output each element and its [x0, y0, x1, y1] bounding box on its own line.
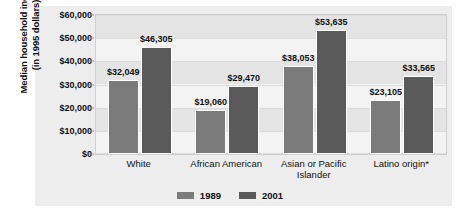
- figure: Median household income (in 1995 dollars…: [0, 0, 460, 211]
- bar-value-label: $38,053: [282, 53, 315, 63]
- y-axis-tick-mark: [89, 15, 94, 16]
- bar-value-label: $53,635: [315, 17, 348, 27]
- bar-value-label: $33,565: [402, 63, 435, 73]
- bar: [108, 80, 139, 154]
- bar-value-label: $46,305: [140, 34, 173, 44]
- y-axis-tick-label: $30,000: [40, 80, 92, 90]
- y-axis-tick-label: $0: [40, 149, 92, 159]
- y-axis-tick-mark: [89, 84, 94, 85]
- y-axis-tick-mark: [89, 61, 94, 62]
- bar-value-label: $32,049: [107, 67, 140, 77]
- bar: [228, 86, 259, 154]
- bar: [195, 110, 226, 154]
- bar: [283, 66, 314, 154]
- y-axis-tick-label: $50,000: [40, 33, 92, 43]
- bar-value-label: $29,470: [227, 73, 260, 83]
- legend-swatch: [177, 192, 194, 199]
- legend-item[interactable]: 1989: [177, 190, 221, 201]
- y-axis-tick-label: $60,000: [40, 10, 92, 20]
- y-axis-title-line1: Median household income: [18, 0, 30, 94]
- legend-label: 2001: [262, 190, 283, 201]
- y-axis-tick-label: $10,000: [40, 126, 92, 136]
- legend-item[interactable]: 2001: [239, 190, 283, 201]
- y-axis-tick-mark: [89, 130, 94, 131]
- x-axis-category-label: Asian or Pacific Islander: [281, 158, 346, 180]
- gridline: [96, 15, 446, 16]
- y-axis-tick-mark: [89, 38, 94, 39]
- bar-value-label: $23,105: [369, 87, 402, 97]
- y-axis-tick-label: $20,000: [40, 103, 92, 113]
- legend-label: 1989: [200, 190, 221, 201]
- y-axis-tick-mark: [89, 107, 94, 108]
- legend-swatch: [239, 192, 256, 199]
- bar-value-label: $19,060: [194, 97, 227, 107]
- bar: [403, 76, 434, 154]
- x-axis-category-label: Latino origin*: [374, 158, 429, 169]
- x-axis-category-label: African American: [190, 158, 262, 169]
- x-axis-category-label: White: [127, 158, 151, 169]
- y-axis-tick-label: $40,000: [40, 56, 92, 66]
- bar: [370, 100, 401, 154]
- y-axis-tick-mark: [89, 154, 94, 155]
- bar: [141, 47, 172, 154]
- chart-legend: 19892001: [0, 190, 460, 201]
- plot-area: $32,049$46,305$19,060$29,470$38,053$53,6…: [95, 14, 447, 155]
- bar: [316, 30, 347, 154]
